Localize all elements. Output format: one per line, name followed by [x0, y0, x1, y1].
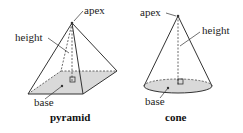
cone-title: cone	[165, 111, 187, 123]
cone-apex-label: apex	[140, 6, 161, 18]
cone-base-label: base	[145, 95, 165, 107]
pyramid-height-label: height	[15, 31, 43, 43]
pyramid-title: pyramid	[50, 111, 90, 123]
pyramid-apex-label: apex	[84, 4, 105, 16]
pyramid-figure	[28, 11, 117, 99]
pyramid-base	[28, 71, 117, 94]
solids-diagram: apex height base pyramid apex height bas…	[0, 0, 243, 133]
pyramid-base-label: base	[34, 96, 54, 108]
cone-height-label: height	[202, 24, 230, 36]
